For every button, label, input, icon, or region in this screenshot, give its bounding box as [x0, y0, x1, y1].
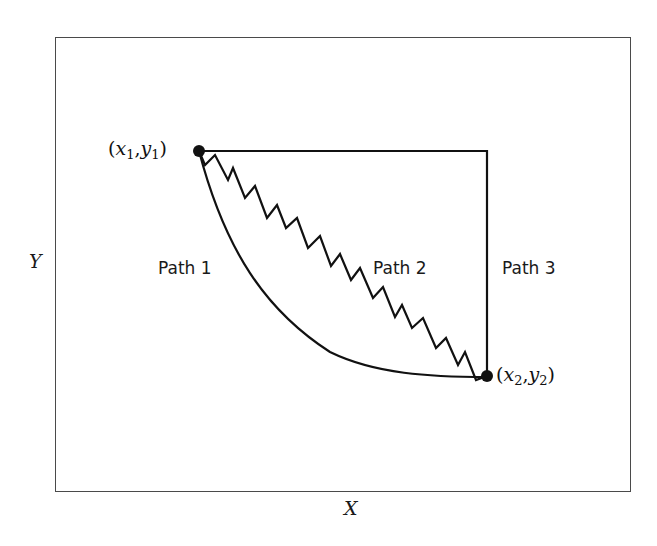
path-1-curve: [199, 151, 487, 377]
start-point-label: (x1,y1): [108, 137, 167, 162]
diagram-canvas: (x1,y1) (x2,y2) Path 1 Path 2 Path 3 X Y: [0, 0, 657, 546]
end-point-label: (x2,y2): [496, 363, 555, 388]
path-2-label: Path 2: [373, 258, 427, 278]
start-point-dot: [193, 145, 205, 157]
paths-svg: [0, 0, 657, 546]
path-3-label: Path 3: [502, 258, 556, 278]
y-axis-label: Y: [29, 250, 42, 272]
path-1-label: Path 1: [158, 258, 212, 278]
path-2-zigzag: [199, 151, 487, 380]
end-point-dot: [481, 370, 493, 382]
x-axis-label: X: [344, 497, 358, 519]
